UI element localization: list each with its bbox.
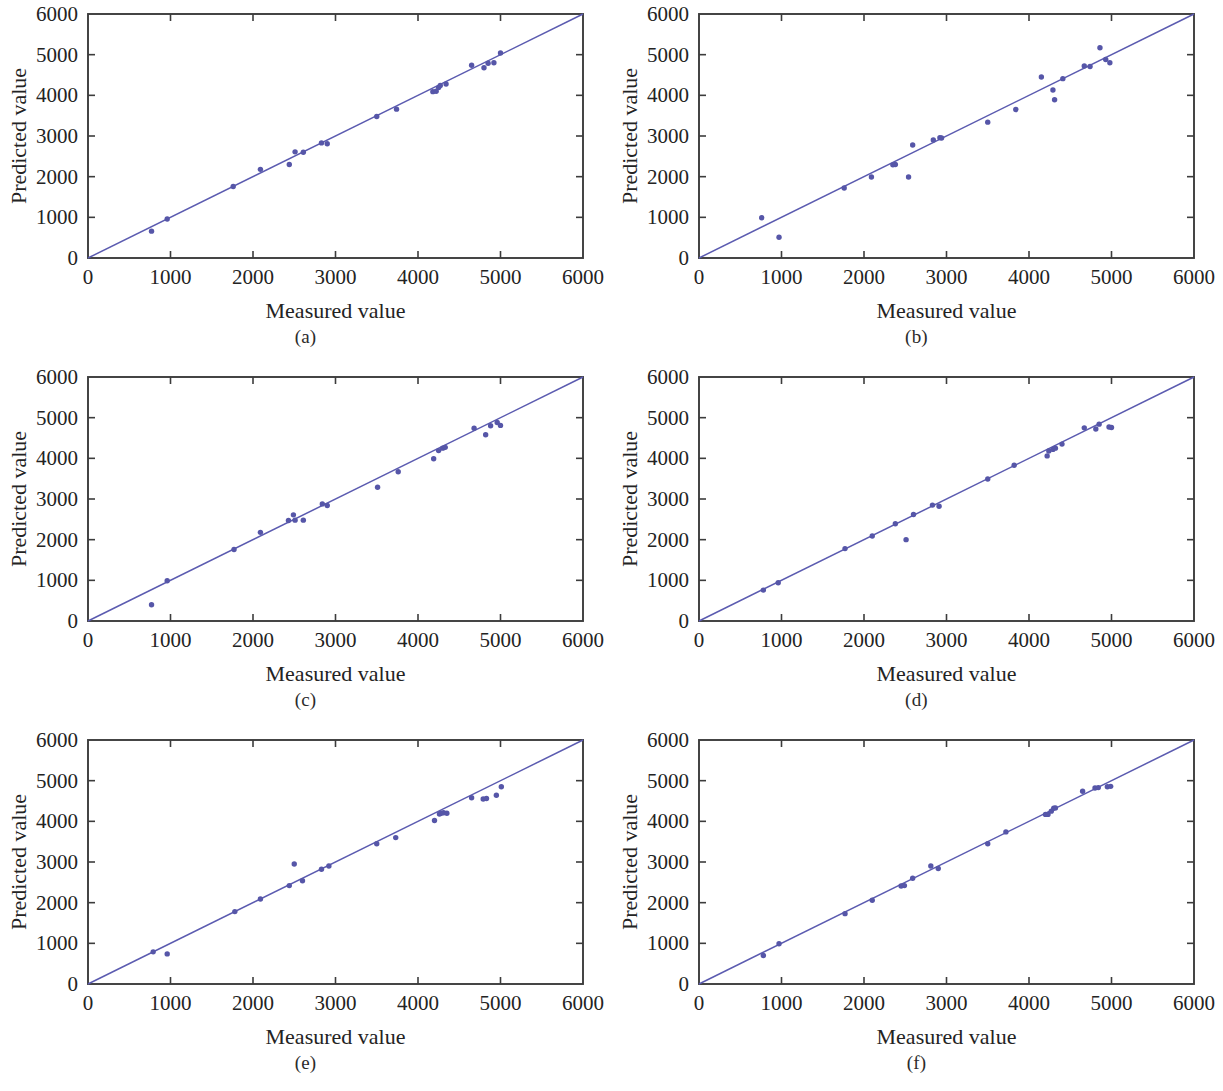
panel-caption: (b) xyxy=(611,326,1222,348)
data-point xyxy=(499,784,504,789)
data-point xyxy=(1096,785,1101,790)
data-point xyxy=(1052,97,1057,102)
x-tick-label: 1000 xyxy=(150,265,192,289)
x-tick-label: 2000 xyxy=(232,991,274,1015)
data-point xyxy=(910,142,915,147)
data-point xyxy=(1011,463,1016,468)
plot-area: 0100020003000400050006000010002000300040… xyxy=(611,0,1222,320)
y-tick-label: 1000 xyxy=(36,205,78,229)
data-point xyxy=(319,140,324,145)
data-point xyxy=(444,811,449,816)
data-point xyxy=(469,63,474,68)
y-axis-title: Predicted value xyxy=(617,68,642,204)
data-point xyxy=(258,167,263,172)
y-tick-label: 3000 xyxy=(36,124,78,148)
data-point xyxy=(776,235,781,240)
data-point xyxy=(393,835,398,840)
data-point xyxy=(1082,425,1087,430)
data-point xyxy=(1050,87,1055,92)
data-point xyxy=(759,215,764,220)
x-tick-label: 3000 xyxy=(315,628,357,652)
data-point xyxy=(936,866,941,871)
y-tick-label: 1000 xyxy=(647,568,689,592)
x-tick-label: 0 xyxy=(83,265,94,289)
x-tick-label: 5000 xyxy=(480,991,522,1015)
data-point xyxy=(258,896,263,901)
y-axis-title: Predicted value xyxy=(6,431,31,567)
x-tick-label: 0 xyxy=(694,265,705,289)
x-tick-label: 6000 xyxy=(1173,265,1215,289)
data-point xyxy=(1053,805,1058,810)
x-tick-label: 3000 xyxy=(926,628,968,652)
data-point xyxy=(291,512,296,517)
x-axis-title: Measured value xyxy=(266,1024,406,1046)
y-tick-label: 2000 xyxy=(36,891,78,915)
x-tick-label: 1000 xyxy=(761,628,803,652)
data-point xyxy=(396,469,401,474)
x-tick-label: 2000 xyxy=(843,991,885,1015)
data-point xyxy=(438,83,443,88)
x-tick-label: 2000 xyxy=(843,628,885,652)
y-tick-label: 0 xyxy=(68,246,79,270)
y-tick-label: 4000 xyxy=(36,809,78,833)
data-point xyxy=(1109,425,1114,430)
data-point xyxy=(893,162,898,167)
data-point xyxy=(491,60,496,65)
data-point xyxy=(1053,445,1058,450)
data-point xyxy=(1108,784,1113,789)
data-point xyxy=(1107,60,1112,65)
data-point xyxy=(939,135,944,140)
y-tick-label: 2000 xyxy=(647,165,689,189)
x-tick-label: 5000 xyxy=(1091,628,1133,652)
y-tick-label: 5000 xyxy=(36,406,78,430)
data-point-group xyxy=(761,421,1115,592)
y-tick-label: 5000 xyxy=(647,43,689,67)
y-tick-label: 6000 xyxy=(36,365,78,389)
data-point xyxy=(150,949,155,954)
data-point xyxy=(326,863,331,868)
x-tick-label: 1000 xyxy=(761,991,803,1015)
data-point xyxy=(911,512,916,517)
x-tick-label: 5000 xyxy=(1091,991,1133,1015)
data-point xyxy=(902,883,907,888)
x-tick-label: 1000 xyxy=(150,628,192,652)
data-point xyxy=(936,504,941,509)
x-tick-label: 6000 xyxy=(562,628,604,652)
data-point xyxy=(374,841,379,846)
x-tick-label: 4000 xyxy=(1008,991,1050,1015)
x-tick-label: 6000 xyxy=(562,991,604,1015)
y-axis-title: Predicted value xyxy=(617,431,642,567)
x-axis-title: Measured value xyxy=(266,661,406,683)
data-point xyxy=(325,503,330,508)
y-tick-label: 0 xyxy=(68,972,79,996)
data-point xyxy=(910,876,915,881)
identity-reference-line xyxy=(88,740,583,984)
data-point xyxy=(231,547,236,552)
data-point xyxy=(869,174,874,179)
data-point-group xyxy=(761,784,1114,959)
data-point xyxy=(488,423,493,428)
y-tick-label: 0 xyxy=(679,246,690,270)
data-point xyxy=(319,867,324,872)
scatter-panel-b: 0100020003000400050006000010002000300040… xyxy=(611,0,1222,363)
panel-caption: (d) xyxy=(611,689,1222,711)
identity-reference-line xyxy=(699,740,1194,984)
data-point xyxy=(320,501,325,506)
x-tick-label: 5000 xyxy=(1091,265,1133,289)
panel-caption: (c) xyxy=(0,689,611,711)
plot-area: 0100020003000400050006000010002000300040… xyxy=(0,363,611,683)
x-tick-label: 3000 xyxy=(315,991,357,1015)
y-tick-label: 1000 xyxy=(36,568,78,592)
x-tick-label: 0 xyxy=(83,628,94,652)
x-tick-label: 2000 xyxy=(843,265,885,289)
figure-panel-grid: 0100020003000400050006000010002000300040… xyxy=(0,0,1223,1091)
data-point xyxy=(1003,829,1008,834)
data-point-group xyxy=(149,420,503,608)
data-point xyxy=(149,602,154,607)
data-point xyxy=(292,861,297,866)
data-point xyxy=(292,517,297,522)
data-point xyxy=(985,841,990,846)
y-tick-label: 2000 xyxy=(36,528,78,552)
y-tick-label: 3000 xyxy=(647,850,689,874)
x-tick-label: 6000 xyxy=(1173,628,1215,652)
